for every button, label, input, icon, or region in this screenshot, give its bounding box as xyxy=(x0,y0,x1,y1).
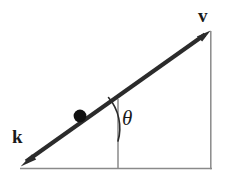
label-vector-v: v xyxy=(198,6,208,25)
label-vector-k: k xyxy=(12,127,23,146)
diagram-canvas xyxy=(0,0,228,177)
diagram-background xyxy=(0,0,228,177)
label-angle-theta: θ xyxy=(122,108,132,129)
point-on-vector xyxy=(74,110,87,123)
vector-diagram: v k θ xyxy=(0,0,228,177)
